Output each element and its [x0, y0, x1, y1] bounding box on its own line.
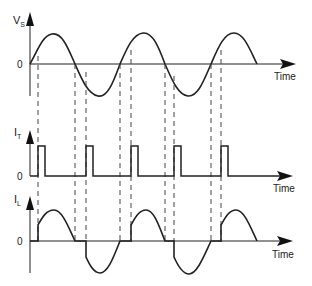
vs-sine-trace	[30, 33, 257, 96]
load-current-panel: IL 0 Time	[14, 193, 294, 274]
timing-guide-lines	[38, 50, 221, 242]
il-y-axis-arrow-icon	[26, 196, 34, 210]
vs-zero-label: 0	[17, 59, 23, 70]
il-time-label: Time	[272, 249, 294, 260]
vs-axis-label: VS	[13, 14, 25, 28]
il-chopped-sine-trace	[30, 210, 257, 274]
it-time-label: Time	[273, 183, 295, 194]
vs-y-axis-arrow-icon	[26, 12, 34, 26]
it-zero-label: 0	[17, 171, 23, 182]
it-axis-label: IT	[14, 126, 22, 140]
it-pulse-trace	[30, 146, 280, 176]
vs-time-label: Time	[274, 71, 296, 82]
it-y-axis-arrow-icon	[26, 130, 34, 144]
waveform-diagram: VS 0 Time IT 0 Time IL 0 Time	[0, 0, 312, 286]
gate-current-panel: IT 0 Time	[14, 126, 295, 194]
il-axis-label: IL	[14, 193, 21, 207]
supply-voltage-panel: VS 0 Time	[13, 12, 296, 96]
il-zero-label: 0	[17, 236, 23, 247]
